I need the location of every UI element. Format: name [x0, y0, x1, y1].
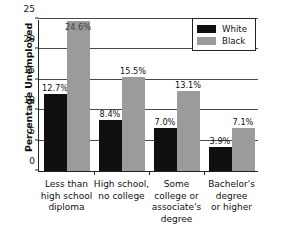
legend-swatch — [197, 37, 216, 45]
bar-value-label: 15.5% — [120, 66, 146, 76]
bar — [67, 21, 90, 171]
bar-value-label: 12.7% — [42, 83, 68, 93]
chart-legend: WhiteBlack — [192, 18, 256, 51]
y-tick-label: 10 — [24, 95, 35, 105]
y-tick-label: 25 — [24, 4, 35, 14]
bar-value-label: 8.4% — [100, 109, 121, 119]
x-category-label-line: degree — [200, 191, 264, 203]
x-category-label-line: Bachelor's — [200, 179, 264, 191]
y-tick-mark — [35, 48, 39, 49]
bar-value-label: 7.0% — [155, 117, 176, 127]
y-tick-mark — [35, 139, 39, 140]
bar — [122, 77, 145, 171]
y-tick-label: 15 — [24, 65, 35, 75]
bar — [44, 94, 67, 171]
bar-value-label: 24.6% — [65, 22, 91, 32]
bar-chart: Percentage Unemployed 0510152025 12.7%24… — [0, 0, 283, 236]
bar-value-label: 13.1% — [175, 80, 201, 90]
y-tick-label: 20 — [24, 34, 35, 44]
y-tick-mark — [35, 170, 39, 171]
x-category-label: Bachelor'sdegreeor higher — [200, 179, 264, 214]
legend-item: Black — [197, 35, 251, 46]
bar — [232, 128, 255, 171]
bar — [99, 120, 122, 171]
y-tick-label: 5 — [29, 126, 35, 136]
legend-label: Black — [222, 36, 245, 46]
legend-label: White — [222, 24, 247, 34]
bar — [209, 147, 232, 171]
bar — [177, 91, 200, 171]
y-tick-mark — [35, 78, 39, 79]
y-tick-mark — [35, 18, 39, 19]
y-tick-label: 0 — [29, 156, 35, 166]
bar-value-label: 7.1% — [233, 117, 254, 127]
legend-swatch — [197, 25, 216, 33]
x-tick-mark — [204, 171, 205, 175]
x-category-label-line: diploma — [35, 202, 99, 214]
x-tick-mark — [94, 171, 95, 175]
bar — [154, 128, 177, 171]
x-category-label-line: or higher — [200, 202, 264, 214]
x-tick-mark — [149, 171, 150, 175]
x-category-label-line: degree — [145, 214, 209, 226]
y-tick-mark — [35, 109, 39, 110]
bar-value-label: 3.9% — [210, 136, 231, 146]
legend-item: White — [197, 23, 251, 34]
